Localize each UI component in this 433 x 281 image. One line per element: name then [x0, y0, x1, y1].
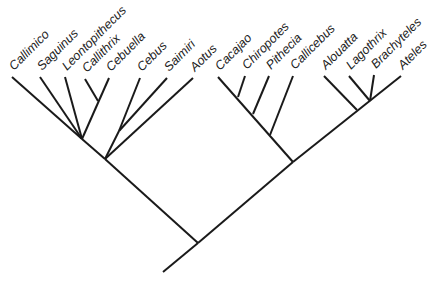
branch-line — [119, 78, 140, 131]
phylogenetic-tree: CallimicoSaguinusLeontopithecusCallithri… — [0, 0, 433, 281]
branch-line — [85, 79, 98, 101]
branch-line — [270, 76, 293, 135]
branch-line — [293, 76, 401, 162]
branch-line — [253, 76, 269, 114]
branch-line — [238, 76, 245, 97]
branch-line — [105, 131, 119, 159]
tree-branches — [12, 75, 401, 272]
branch-line — [163, 243, 198, 272]
branch-line — [198, 162, 293, 243]
branch-line — [82, 139, 105, 159]
branch-line — [105, 159, 198, 243]
branch-line — [349, 76, 370, 101]
taxon-labels: CallimicoSaguinusLeontopithecusCallithri… — [6, 3, 429, 75]
branch-line — [105, 78, 193, 159]
branch-line — [218, 77, 293, 162]
branch-line — [82, 78, 109, 139]
branch-line — [65, 77, 82, 139]
